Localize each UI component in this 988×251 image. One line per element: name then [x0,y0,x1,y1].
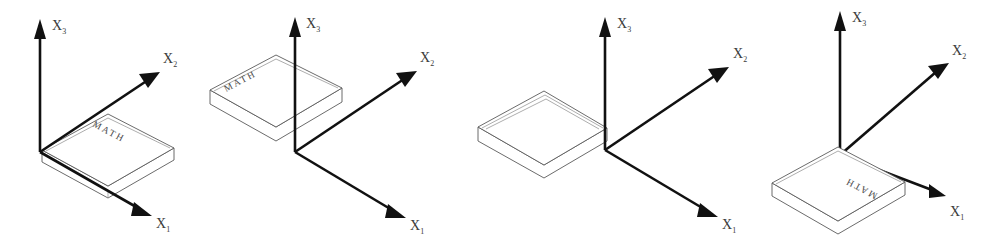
x2-axis-line [840,72,936,155]
x2-arrow-head [396,71,417,87]
x2-axis-line [605,75,716,150]
x1-axis-line [605,150,704,209]
book-math: MATH [42,114,174,198]
x2-arrow-head [708,67,729,83]
x3-axis-label: X3 [306,16,320,34]
x3-arrow-head [599,17,611,37]
x1-axis-label: X1 [950,204,964,222]
x1-arrow-head [929,184,946,198]
book-cover-face [478,91,607,165]
panel-1: MATH X3 X2 X1 [34,18,177,234]
panel-4: X3 X2 X1 MATH [772,10,966,234]
x2-arrow-head [139,72,160,88]
x1-arrow-head [131,202,152,216]
x3-arrow-head [289,17,301,37]
x1-axis-label: X1 [156,216,170,234]
x1-axis-label: X1 [722,217,736,235]
x3-arrow-head [34,19,46,39]
x1-axis-line [295,152,392,210]
x3-axis-label: X3 [852,10,866,28]
book-math: MATH [210,55,342,141]
book-math-inverted: MATH [772,147,905,234]
x2-axis-label: X2 [163,51,177,69]
x2-axis-label: X2 [952,43,966,61]
x1-arrow-head [385,204,406,218]
book-cover-face [772,147,905,221]
x3-arrow-head [834,11,846,31]
panel-2: MATH X3 X2 X1 [210,16,434,236]
panel-3: X3 X2 X1 [478,16,747,235]
x2-axis-label: X2 [420,50,434,68]
x3-axis-label: X3 [52,18,66,36]
x3-axis-label: X3 [617,16,631,34]
x1-arrow-head [697,203,718,217]
book-blank [478,91,607,178]
x2-axis-label: X2 [733,46,747,64]
x1-axis-label: X1 [410,218,424,236]
figure-panel: MATH X3 X2 X1 MATH X3 [0,0,988,251]
